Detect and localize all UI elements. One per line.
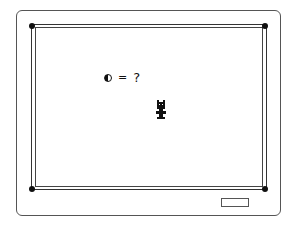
corner-dot-icon — [262, 186, 268, 192]
corner-dot-icon — [29, 23, 35, 29]
corner-dot-icon — [262, 23, 268, 29]
game-screen[interactable] — [35, 27, 263, 187]
robot-sprite-icon — [156, 100, 166, 120]
equals-sign: = — [118, 71, 127, 84]
half-moon-icon — [104, 74, 112, 82]
disk-slot — [221, 198, 249, 207]
unknown-value: ? — [133, 70, 140, 85]
hud-equation: = ? — [104, 70, 140, 85]
corner-dot-icon — [29, 186, 35, 192]
